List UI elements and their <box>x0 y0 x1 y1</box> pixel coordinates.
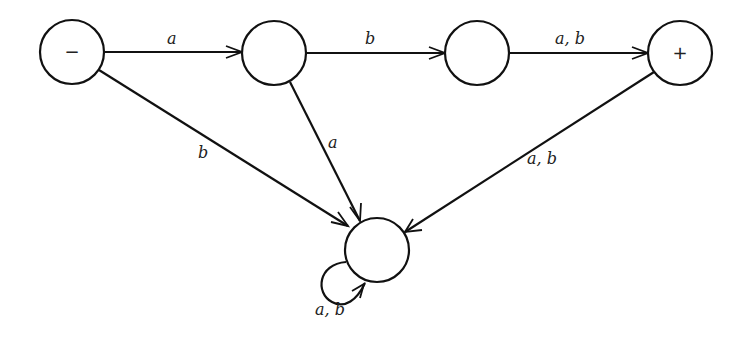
edge-label-s2-s3: b <box>365 29 375 48</box>
automaton-diagram: a b a, b b a a, b a, b − <box>0 0 740 340</box>
edge-s1-s5: b <box>99 70 348 226</box>
edge-label-s1-s5: b <box>198 143 208 162</box>
edge-s3-s4: a, b <box>509 29 648 59</box>
edge-label-s1-s2: a <box>167 29 177 48</box>
final-plus-mark: + <box>672 42 687 63</box>
state-trap <box>345 218 409 282</box>
state-final: + <box>648 21 712 85</box>
edge-s2-s5: a <box>290 82 361 221</box>
edge-label-s2-s5: a <box>328 133 338 152</box>
state-2 <box>242 21 306 85</box>
state-3 <box>445 21 509 85</box>
state-start: − <box>40 20 104 84</box>
edge-s4-s5: a, b <box>405 72 654 232</box>
edge-label-s5-loop: a, b <box>315 300 345 319</box>
start-minus-mark: − <box>64 41 79 62</box>
edge-s2-s3: b <box>306 29 445 59</box>
edge-s1-s2: a <box>104 29 242 58</box>
edge-label-s3-s4: a, b <box>555 29 585 48</box>
edge-label-s4-s5: a, b <box>527 149 557 168</box>
